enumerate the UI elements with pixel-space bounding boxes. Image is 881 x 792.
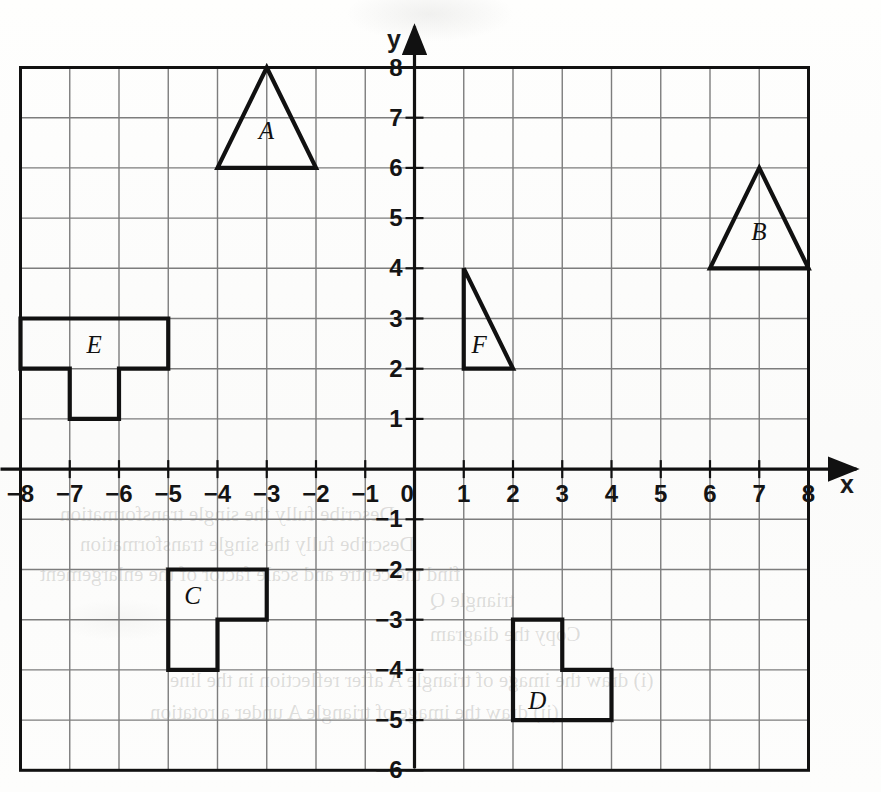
y-axis-label: y [387, 27, 401, 52]
y-tick-label--1: −1 [375, 507, 402, 531]
y-tick-label--6: −6 [375, 758, 402, 782]
x-tick-label--5: −5 [155, 482, 182, 506]
x-tick-label-4: 4 [605, 482, 618, 506]
x-tick-label--8: −8 [7, 482, 34, 506]
y-tick-label--3: −3 [375, 608, 402, 632]
y-tick-label-1: 1 [389, 407, 402, 431]
x-tick-label--1: −1 [352, 482, 379, 506]
x-tick-label--7: −7 [56, 482, 83, 506]
shape-label-E: E [86, 331, 102, 356]
shape-label-B: B [751, 218, 767, 243]
y-tick-label-4: 4 [389, 256, 402, 280]
y-tick-label-6: 6 [389, 156, 402, 180]
x-tick-label-7: 7 [753, 482, 766, 506]
x-axis-label: x [840, 472, 854, 497]
axis-lines [1, 27, 857, 771]
shape-label-C: C [184, 582, 201, 607]
shape-label-A: A [259, 118, 275, 143]
y-tick-label--2: −2 [375, 558, 402, 582]
y-tick-label-8: 8 [389, 56, 402, 80]
shape-label-D: D [528, 688, 547, 713]
x-tick-label-8: 8 [802, 482, 815, 506]
x-tick-label-1: 1 [457, 482, 470, 506]
x-tick-label-0: 0 [401, 482, 414, 506]
x-tick-label-2: 2 [506, 482, 519, 506]
shape-label-F: F [472, 331, 488, 356]
x-tick-label--2: −2 [302, 482, 329, 506]
y-tick-label-5: 5 [389, 206, 402, 230]
x-tick-label--6: −6 [105, 482, 132, 506]
x-tick-label--3: −3 [253, 482, 280, 506]
y-tick-label-7: 7 [389, 106, 402, 130]
y-tick-label--4: −4 [375, 658, 402, 682]
worksheet-page: Describe fully the single transformation… [0, 0, 881, 792]
y-tick-label--5: −5 [375, 708, 402, 732]
coordinate-grid-figure [0, 0, 881, 792]
x-tick-label-6: 6 [703, 482, 716, 506]
y-tick-label-2: 2 [389, 357, 402, 381]
x-tick-label-5: 5 [654, 482, 667, 506]
y-tick-label-3: 3 [389, 307, 402, 331]
x-tick-label-3: 3 [556, 482, 569, 506]
x-tick-label--4: −4 [204, 482, 231, 506]
